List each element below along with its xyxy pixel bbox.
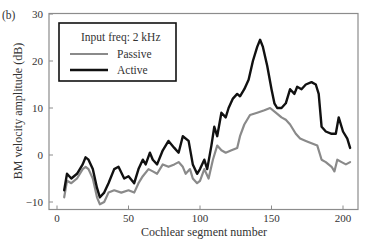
- x-axis-label: Cochlear segment number: [141, 225, 267, 239]
- x-tick-label: 100: [192, 212, 209, 224]
- chart: (b) −100102030 050100150200 Input freq: …: [0, 0, 368, 244]
- x-tick-label: 200: [335, 212, 352, 224]
- x-tick-label: 0: [54, 212, 60, 224]
- x-tick-label: 50: [123, 212, 135, 224]
- y-tick-label: 10: [32, 102, 44, 114]
- y-axis-label: BM velocity amplitude (dB): [11, 43, 25, 179]
- legend: Input freq: 2 kHz Passive Active: [59, 23, 176, 81]
- y-tick-label: 20: [32, 55, 44, 67]
- legend-title: Input freq: 2 kHz: [81, 31, 161, 44]
- y-tick-label: 0: [38, 149, 44, 161]
- x-axis-ticks: 050100150200: [54, 206, 352, 225]
- x-tick-label: 150: [263, 212, 280, 224]
- legend-label-passive: Passive: [117, 48, 152, 60]
- y-tick-label: −10: [26, 196, 44, 208]
- legend-label-active: Active: [117, 64, 148, 76]
- panel-label: (b): [2, 9, 16, 22]
- series-line-passive: [64, 108, 350, 204]
- y-tick-label: 30: [32, 8, 44, 20]
